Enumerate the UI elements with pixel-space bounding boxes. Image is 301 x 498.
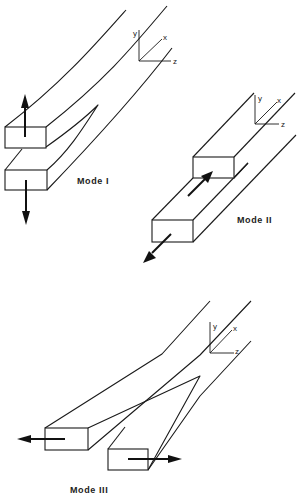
mode-3-left-arm-right-edge [88, 301, 251, 450]
mode-2-axes: y x z [255, 94, 285, 129]
mode-1-upper-arm-mid-edge [46, 6, 167, 127]
mode-1-lower-arm-edge [47, 48, 172, 190]
fracture-modes-diagram: y x z Mode I y x z Mode II [0, 0, 301, 498]
mode-3-axis-x-label: x [233, 324, 237, 333]
mode-1-axis-z-label: z [173, 57, 177, 66]
mode-2-axis-x-label: x [277, 96, 281, 105]
mode-2-lower-block [152, 220, 193, 242]
mode-3-label: Mode III [70, 485, 108, 495]
mode-3-axes: y x z [210, 322, 239, 356]
mode-3-left-arrowhead [17, 435, 31, 443]
mode-1-crack-wedge [46, 105, 98, 170]
mode-3-right-arm-outer-edge [148, 341, 251, 470]
mode-2-lower-arm-right-edge [193, 135, 296, 242]
mode-2-lower-arm-left-edge [152, 178, 193, 220]
mode-2-down-arrowhead [143, 251, 156, 263]
mode-1-down-arrowhead [22, 211, 30, 225]
mode-1-illustration: y x z Mode I [5, 6, 177, 225]
mode-1-lower-inner-edge [5, 149, 22, 170]
mode-2-upper-arm-right-edge [234, 93, 295, 157]
mode-3-illustration: y x z Mode III [17, 301, 251, 495]
mode-1-up-arrowhead [21, 94, 29, 108]
mode-1-axes: y x z [133, 29, 177, 66]
mode-3-right-arrowhead [168, 455, 182, 463]
mode-2-axis-z-label: z [281, 120, 285, 129]
mode-1-axis-y-label: y [133, 29, 137, 38]
mode-2-label: Mode II [237, 215, 272, 225]
mode-3-left-arm-top-edge [45, 301, 210, 428]
mode-1-axis-x-label: x [163, 33, 167, 42]
mode-1-upper-arm-top-edge [5, 10, 126, 127]
mode-3-axis-y-label: y [213, 322, 217, 331]
mode-1-label: Mode I [77, 176, 109, 186]
mode-2-upper-arm-top-edge [193, 93, 254, 157]
mode-2-illustration: y x z Mode II [143, 93, 296, 263]
mode-2-axis-y-label: y [258, 94, 262, 103]
mode-3-axis-z-label: z [235, 347, 239, 356]
mode-2-upper-block [193, 157, 234, 178]
